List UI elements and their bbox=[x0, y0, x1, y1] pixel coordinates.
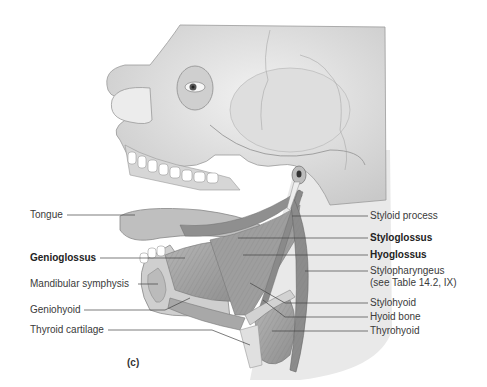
label-stylopharyngeus: Stylopharyngeus bbox=[370, 265, 445, 277]
temporal-fossa bbox=[230, 68, 350, 152]
label-genioglossus: Genioglossus bbox=[30, 252, 96, 264]
label-hyoglossus: Hyoglossus bbox=[370, 249, 427, 261]
label-thyrohyoid: Thyrohyoid bbox=[370, 325, 419, 337]
label-styloglossus: Styloglossus bbox=[370, 232, 432, 244]
label-stylohyoid: Stylohyoid bbox=[370, 297, 416, 309]
label-styloid-process: Styloid process bbox=[370, 210, 438, 222]
label-stylopharyngeus-note: (see Table 14.2, IX) bbox=[370, 277, 457, 289]
label-thyroid-cartilage: Thyroid cartilage bbox=[30, 324, 104, 336]
panel-label: (c) bbox=[127, 357, 139, 368]
label-hyoid-bone: Hyoid bone bbox=[370, 311, 421, 323]
label-tongue: Tongue bbox=[30, 209, 63, 221]
label-mandibular-symphysis: Mandibular symphysis bbox=[30, 278, 129, 290]
thyroid-cartilage bbox=[240, 325, 262, 368]
label-geniohyoid: Geniohyoid bbox=[30, 304, 81, 316]
nose bbox=[111, 88, 152, 124]
